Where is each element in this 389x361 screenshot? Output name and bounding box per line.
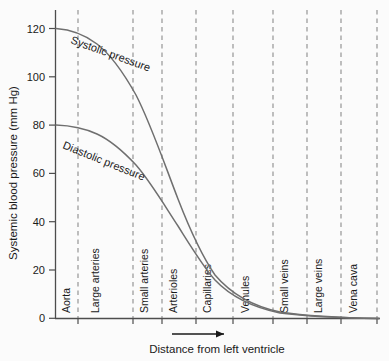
y-tick-label-0: 0 [39, 312, 45, 324]
segment-label-small-veins: Small veins [278, 259, 290, 313]
x-axis-title: Distance from left ventricle [149, 343, 285, 355]
y-tick-label-120: 120 [27, 23, 45, 35]
y-tick-label-80: 80 [33, 119, 45, 131]
segment-label-arterioles: Arterioles [167, 269, 179, 313]
segment-label-large-arteries: Large arteries [89, 248, 101, 313]
y-tick-label-40: 40 [33, 216, 45, 228]
y-tick-label-100: 100 [27, 71, 45, 83]
segment-label-venules: Venules [239, 276, 251, 313]
segment-label-large-veins: Large veins [312, 259, 324, 313]
segment-label-vena-cava: Vena cava [347, 264, 359, 313]
segment-label-aorta: Aorta [60, 288, 72, 313]
segment-label-small-arteries: Small arteries [138, 249, 150, 313]
y-tick-label-20: 20 [33, 264, 45, 276]
chart-background [0, 0, 389, 361]
segment-label-capillaries: Capillaries [201, 264, 213, 313]
blood-pressure-chart: 120 100 80 60 40 20 0 Systemic blood pre… [0, 0, 389, 361]
y-axis-title: Systemic blood pressure (mm Hg) [7, 86, 19, 260]
chart-page: 120 100 80 60 40 20 0 Systemic blood pre… [0, 0, 389, 361]
y-tick-label-60: 60 [33, 167, 45, 179]
